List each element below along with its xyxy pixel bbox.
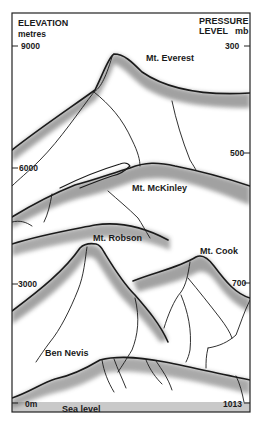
left-axis-title: ELEVATION [18,19,68,28]
ben-nevis-shade [12,358,250,408]
cook-flank-line [181,295,191,362]
everest-flank-line [94,92,140,166]
right-axis-unit: mb [235,27,249,36]
peak-label-robson: Mt. Robson [93,234,142,243]
right-tick-label-300: 300 [225,42,239,51]
left-tick-label-3000: 3000 [18,280,37,289]
cook-flank-line [206,348,208,368]
peak-label-cook: Mt. Cook [200,247,238,256]
peak-label-everest: Mt. Everest [146,54,194,63]
left-tick-label-9000: 9000 [21,42,40,51]
right-axis-title: PRESSURE [199,17,249,26]
mountain-elevation-diagram [0,0,262,426]
left-tick-label-6000: 6000 [19,164,38,173]
sea-band [12,402,250,412]
right-tick-label-700: 700 [232,279,246,288]
peak-label-mckinley: Mt. McKinley [132,184,187,193]
right-tick-label-500: 500 [230,149,244,158]
right-axis-title-line2: LEVEL [199,27,228,36]
left-axis-unit: metres [18,30,46,39]
left-tick-label-0m: 0m [25,400,37,409]
peak-label-ben-nevis: Ben Nevis [45,349,89,358]
everest-shade [12,54,250,162]
everest-flank-line [172,101,196,170]
robson-ridge [12,244,168,342]
mckinley-shade [12,163,250,228]
sea-level-label: Sea level [62,405,101,414]
right-tick-label-1013: 1013 [223,400,242,409]
